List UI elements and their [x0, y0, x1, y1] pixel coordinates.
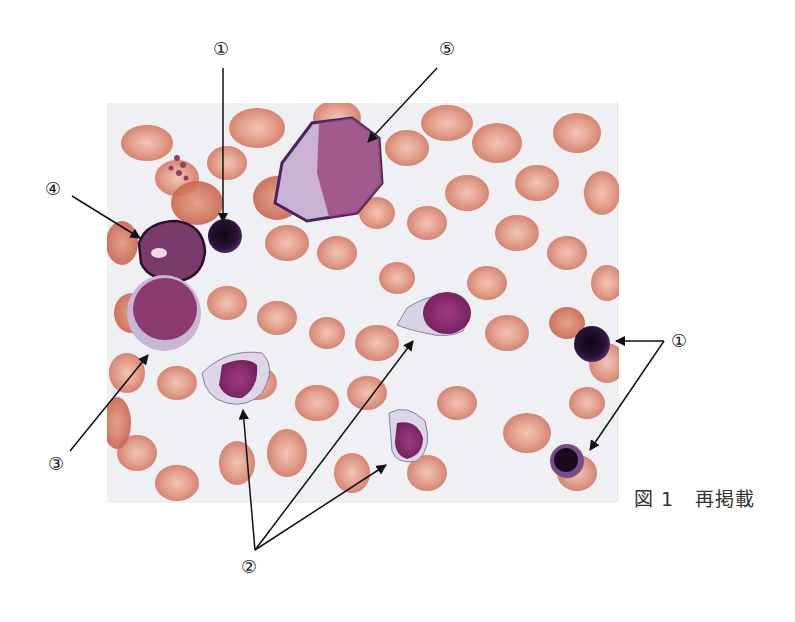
- figure-number: 図 1: [634, 488, 674, 510]
- arrow-5: [368, 68, 437, 142]
- arrow-2-left: [243, 410, 255, 550]
- caption-note: 再掲載: [695, 488, 755, 510]
- figure: ① ⑤ ④ ③ ① ② 図 1 再掲載: [0, 0, 795, 622]
- arrow-4: [72, 196, 140, 238]
- arrow-2-upper: [255, 341, 413, 550]
- label-1-right: ①: [671, 332, 687, 350]
- label-3: ③: [48, 455, 64, 473]
- figure-caption: 図 1 再掲載: [634, 484, 755, 511]
- annotation-arrows: [0, 0, 795, 622]
- arrow-3: [70, 355, 148, 451]
- label-1-top: ①: [213, 40, 229, 58]
- label-2: ②: [241, 558, 257, 576]
- label-4: ④: [45, 180, 61, 198]
- arrow-2-lower: [255, 465, 386, 550]
- label-5: ⑤: [439, 40, 455, 58]
- arrow-1-right-lower: [590, 341, 664, 450]
